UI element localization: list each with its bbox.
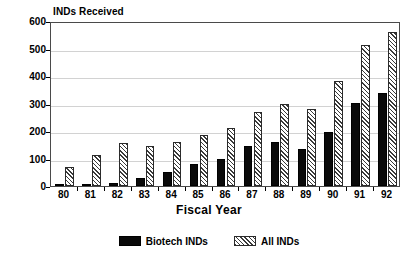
bar-all-87 [254,112,263,186]
bar-all-90 [334,81,343,186]
bars-layer [51,23,399,186]
bar-all-91 [361,45,370,186]
legend-item-all: All INDs [234,236,299,247]
bar-biotech-90 [324,132,333,186]
bar-all-81 [92,155,101,186]
y-axis-title: INDs Received [53,6,124,17]
x-axis-tick-label: 81 [78,189,102,201]
bar-biotech-89 [298,149,307,186]
y-axis-tick-mark [46,22,50,23]
bar-biotech-84 [163,172,172,186]
bar-all-80 [65,167,74,186]
chart-legend: Biotech INDs All INDs [0,233,418,249]
y-axis-tick-labels: 0100200300400500600 [0,0,46,261]
legend-label-biotech: Biotech INDs [146,236,208,247]
x-axis-tick-label: 84 [159,189,183,201]
x-axis-tick-label: 86 [213,189,237,201]
y-axis-tick-label: 600 [0,17,46,27]
x-axis-tick-mark [104,187,105,191]
bar-biotech-91 [351,103,360,186]
bar-biotech-81 [82,184,91,186]
bar-biotech-88 [271,142,280,186]
x-axis-tick-mark [131,187,132,191]
bar-biotech-86 [217,159,226,186]
legend-item-biotech: Biotech INDs [119,236,208,247]
y-axis-tick-mark [46,105,50,106]
y-axis-tick-label: 100 [0,155,46,165]
x-axis-tick-mark [212,187,213,191]
x-axis-tick-labels: 80818283848586878889909192 [0,189,418,203]
legend-label-all: All INDs [261,236,299,247]
x-axis-title: Fiscal Year [0,203,418,217]
x-axis-tick-mark [158,187,159,191]
bar-all-83 [146,146,155,186]
x-axis-tick-mark [238,187,239,191]
bar-all-86 [227,128,236,186]
x-axis-tick-label: 85 [186,189,210,201]
x-axis-tick-mark [373,187,374,191]
bar-all-89 [307,109,316,186]
y-axis-tick-mark [46,50,50,51]
x-axis-tick-label: 80 [51,189,75,201]
x-axis-tick-mark [292,187,293,191]
x-axis-tick-mark [265,187,266,191]
x-axis-tick-label: 83 [132,189,156,201]
x-axis-tick-label: 91 [348,189,372,201]
y-axis-tick-mark [46,132,50,133]
y-axis-tick-mark [46,187,50,188]
hatched-swatch-icon [234,236,256,246]
x-axis-tick-label: 89 [294,189,318,201]
bar-all-82 [119,143,128,186]
x-axis-tick-mark [346,187,347,191]
ind-received-bar-chart: INDs Received 0100200300400500600 808182… [0,0,418,261]
x-axis-tick-label: 82 [105,189,129,201]
y-axis-tick-label: 200 [0,127,46,137]
y-axis-tick-label: 400 [0,72,46,82]
bar-biotech-83 [136,178,145,186]
x-axis-tick-label: 88 [267,189,291,201]
x-axis-tick-label: 90 [321,189,345,201]
bar-all-84 [173,142,182,186]
bar-biotech-85 [190,164,199,186]
bar-biotech-92 [378,93,387,186]
plot-area [50,22,400,187]
x-axis-tick-label: 87 [240,189,264,201]
y-axis-tick-label: 500 [0,45,46,55]
x-axis-tick-mark [185,187,186,191]
bar-all-92 [388,32,397,186]
y-axis-tick-mark [46,77,50,78]
y-axis-tick-label: 300 [0,100,46,110]
x-axis-tick-label: 92 [375,189,399,201]
bar-all-85 [200,135,209,186]
solid-black-swatch-icon [119,236,141,246]
y-axis-tick-mark [46,160,50,161]
bar-biotech-87 [244,146,253,186]
bar-biotech-80 [55,184,64,186]
x-axis-tick-mark [319,187,320,191]
bar-all-88 [280,104,289,187]
x-axis-tick-mark [77,187,78,191]
bar-biotech-82 [109,183,118,186]
